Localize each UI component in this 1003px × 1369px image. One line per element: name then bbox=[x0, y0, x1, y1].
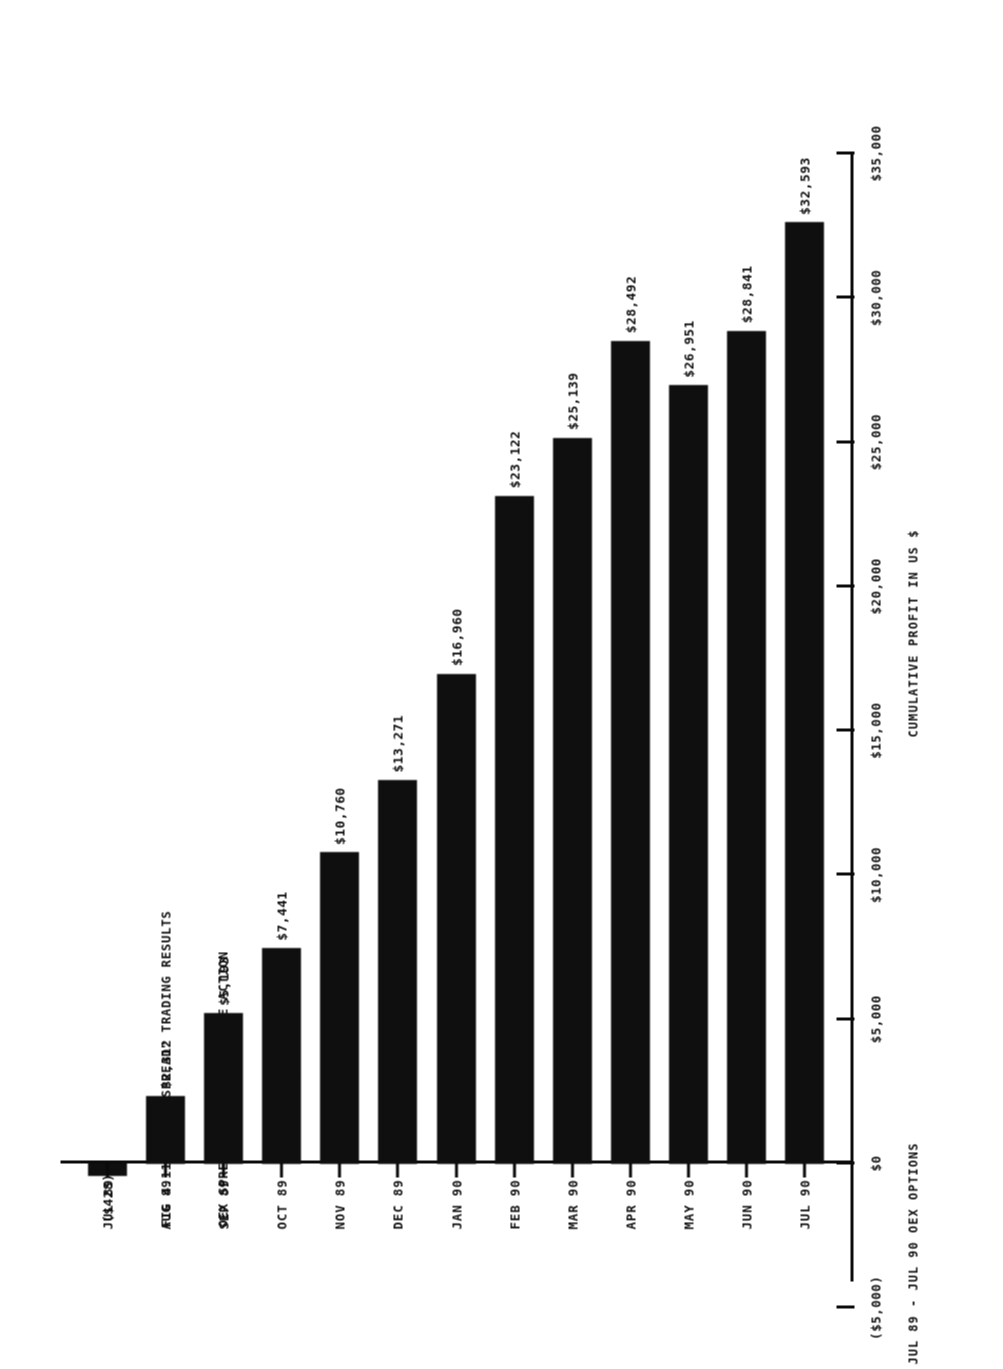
bar-value-label: $28,492 bbox=[622, 275, 637, 333]
bar-row: $25,139MAR 90 bbox=[553, 153, 591, 1163]
category-axis-label: NOV 89 bbox=[332, 1179, 347, 1275]
bar-row: $13,271DEC 89 bbox=[378, 153, 416, 1163]
bar-row: $28,492APR 90 bbox=[611, 153, 649, 1163]
category-axis-label: JUL 90 bbox=[796, 1179, 811, 1275]
bar-row: $5,193SEP 89 bbox=[204, 153, 242, 1163]
value-axis-tick bbox=[836, 151, 854, 154]
category-axis-title: JUL 89 - JUL 90 OEX OPTIONS bbox=[906, 1043, 920, 1369]
category-axis-tick bbox=[454, 1163, 457, 1177]
bar bbox=[320, 853, 358, 1164]
bar-value-label: $23,122 bbox=[506, 430, 521, 488]
value-axis-tick-label: $30,000 bbox=[868, 269, 883, 325]
bar-row: $16,960JAN 90 bbox=[437, 153, 475, 1163]
category-axis-label: FEB 90 bbox=[506, 1179, 521, 1275]
bar bbox=[785, 222, 823, 1163]
value-axis-tick-label: $0 bbox=[868, 1155, 883, 1171]
category-axis-label: SEP 89 bbox=[216, 1179, 231, 1275]
bar bbox=[262, 948, 300, 1163]
bar bbox=[553, 438, 591, 1163]
bar-value-label: $32,593 bbox=[796, 157, 811, 215]
value-axis-tick bbox=[836, 584, 854, 587]
category-axis-tick bbox=[338, 1163, 341, 1177]
bar-value-label: $10,760 bbox=[332, 787, 347, 845]
bar bbox=[146, 1096, 184, 1163]
value-axis-tick-label: $35,000 bbox=[868, 125, 883, 181]
category-axis-tick bbox=[686, 1163, 689, 1177]
category-axis-label: JAN 90 bbox=[448, 1179, 463, 1275]
category-axis-label: MAY 90 bbox=[680, 1179, 695, 1275]
bar-value-label: $13,271 bbox=[390, 714, 405, 772]
bar-row: $23,122FEB 90 bbox=[495, 153, 533, 1163]
bar bbox=[378, 780, 416, 1163]
category-axis-tick bbox=[802, 1163, 805, 1177]
value-axis-tick bbox=[836, 1017, 854, 1020]
value-axis-tick-label: $15,000 bbox=[868, 702, 883, 758]
category-axis-tick bbox=[570, 1163, 573, 1177]
category-axis-label: DEC 89 bbox=[390, 1179, 405, 1275]
value-axis-tick-label: $25,000 bbox=[868, 413, 883, 469]
value-axis-tick bbox=[836, 440, 854, 443]
category-axis-tick bbox=[280, 1163, 283, 1177]
value-axis-line bbox=[850, 153, 853, 1281]
bar bbox=[669, 385, 707, 1163]
value-axis-tick bbox=[836, 1161, 854, 1164]
value-axis-tick-label: $10,000 bbox=[868, 846, 883, 902]
bar-row: $32,593JUL 90 bbox=[785, 153, 823, 1163]
category-axis-tick bbox=[744, 1163, 747, 1177]
category-axis-tick bbox=[628, 1163, 631, 1177]
category-axis-label: JUN 90 bbox=[738, 1179, 753, 1275]
category-axis-label: MAR 90 bbox=[564, 1179, 579, 1275]
value-axis-tick bbox=[836, 1305, 854, 1308]
category-axis-tick bbox=[396, 1163, 399, 1177]
value-axis-tick bbox=[836, 295, 854, 298]
value-axis-tick-label: ($5,000) bbox=[868, 1275, 883, 1339]
bar bbox=[611, 341, 649, 1163]
value-axis-tick bbox=[836, 872, 854, 875]
value-axis-title: CUMULATIVE PROFIT IN US $ bbox=[906, 423, 920, 843]
category-axis-label: OCT 89 bbox=[274, 1179, 289, 1275]
category-axis-tick bbox=[512, 1163, 515, 1177]
bar-row: $28,841JUN 90 bbox=[727, 153, 765, 1163]
bar-value-label: $26,951 bbox=[680, 320, 695, 378]
bar-value-label: $16,960 bbox=[448, 608, 463, 666]
bar-row: $26,951MAY 90 bbox=[669, 153, 707, 1163]
category-axis-label: JUL 89 bbox=[100, 1179, 115, 1275]
bar-row: ($428)JUL 89 bbox=[88, 153, 126, 1163]
category-axis-label: AUG 89 bbox=[158, 1179, 173, 1275]
category-axis-tick bbox=[164, 1163, 167, 1177]
bar bbox=[727, 331, 765, 1163]
bar-value-label: $28,841 bbox=[738, 265, 753, 323]
bar-value-label: $25,139 bbox=[564, 372, 579, 430]
value-axis-tick-label: $20,000 bbox=[868, 558, 883, 614]
bar bbox=[204, 1013, 242, 1163]
category-axis-tick bbox=[222, 1163, 225, 1177]
plot-area: ($5,000)$0$5,000$10,000$15,000$20,000$25… bbox=[78, 153, 833, 1163]
bar-row: $10,760NOV 89 bbox=[320, 153, 358, 1163]
bar-value-label: $5,193 bbox=[216, 956, 231, 1005]
category-axis-label: APR 90 bbox=[622, 1179, 637, 1275]
category-axis-tick bbox=[106, 1163, 109, 1177]
bar-value-label: $2,312 bbox=[158, 1039, 173, 1088]
bar-row: $7,441OCT 89 bbox=[262, 153, 300, 1163]
bar bbox=[437, 674, 475, 1163]
bar-row: $2,312AUG 89 bbox=[146, 153, 184, 1163]
bar-value-label: $7,441 bbox=[274, 891, 289, 940]
value-axis-tick bbox=[836, 728, 854, 731]
bar bbox=[495, 496, 533, 1163]
value-axis-tick-label: $5,000 bbox=[868, 995, 883, 1043]
